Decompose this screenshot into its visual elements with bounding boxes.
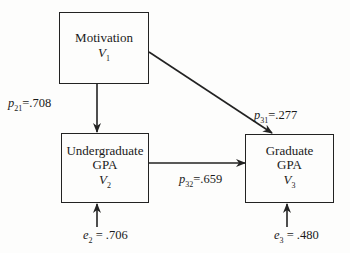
coef-p32: p32=.659 <box>179 172 222 189</box>
node-label: Undergraduate <box>66 144 143 158</box>
node-variable: V2 <box>99 172 111 193</box>
coef-p31: p31=.277 <box>254 108 297 125</box>
error-e2: e2 = .706 <box>83 228 128 245</box>
node-label: Graduate <box>266 144 314 158</box>
node-graduate-gpa: Graduate GPA V3 <box>245 134 334 203</box>
node-label: Motivation <box>75 31 133 45</box>
diagram-arrows <box>0 0 350 253</box>
node-motivation: Motivation V1 <box>59 12 149 84</box>
node-label: GPA <box>93 158 118 172</box>
node-label: GPA <box>277 158 302 172</box>
error-e3: e3 = .480 <box>274 228 319 245</box>
node-undergraduate-gpa: Undergraduate GPA V2 <box>61 133 149 203</box>
coef-p21: p21=.708 <box>8 96 51 113</box>
path-diagram: Motivation V1 Undergraduate GPA V2 Gradu… <box>0 0 350 253</box>
node-variable: V3 <box>284 172 296 193</box>
node-variable: V1 <box>98 45 110 66</box>
